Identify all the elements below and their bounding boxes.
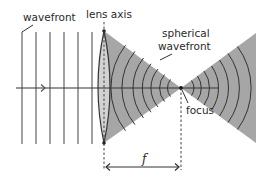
- wavefront-label: wavefront: [23, 11, 76, 23]
- focal-length-label: f: [141, 152, 149, 166]
- wavefront-leader: [22, 25, 33, 32]
- spherical-label-line1: spherical: [162, 27, 210, 39]
- focus-label: focus: [186, 104, 214, 116]
- diagram-canvas: wavefront lens axis spherical wavefront …: [0, 0, 270, 189]
- lens-focus-diagram: wavefront lens axis spherical wavefront …: [0, 0, 270, 189]
- spherical-label-line2: wavefront: [158, 40, 211, 52]
- lens-axis-label: lens axis: [86, 8, 132, 20]
- spherical-wavefront-leader: [160, 54, 172, 60]
